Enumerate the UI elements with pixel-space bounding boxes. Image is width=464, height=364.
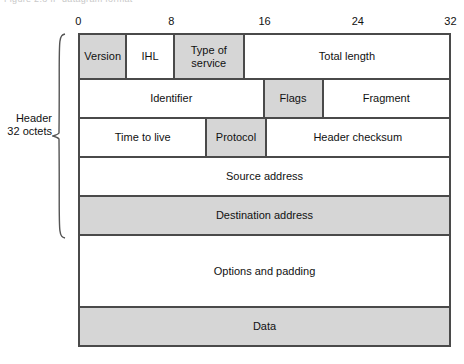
field-label: Source address <box>226 170 303 183</box>
bit-position-ruler: 08162432 <box>78 15 451 29</box>
header-annotation-line-1: Header <box>0 112 52 125</box>
datagram-row: Time to liveProtocolHeader checksum <box>80 119 451 158</box>
bit-tick-label-16: 16 <box>258 15 270 27</box>
datagram-row: IdentifierFlagsFragment <box>80 80 451 119</box>
bit-tick-label-24: 24 <box>352 15 364 27</box>
field-label: Type of service <box>175 44 243 69</box>
field-source-address: Source address <box>80 158 451 197</box>
field-label: IHL <box>142 50 159 63</box>
field-label: Version <box>84 50 121 63</box>
figure-caption-remnant: Figure 2.8 IP datagram format <box>4 0 204 4</box>
field-label: Options and padding <box>214 265 316 278</box>
field-protocol: Protocol <box>207 119 266 158</box>
field-total-length: Total length <box>245 35 451 80</box>
field-fragment: Fragment <box>324 80 451 119</box>
field-label: Data <box>253 320 276 333</box>
field-label: Time to live <box>115 131 171 144</box>
field-identifier: Identifier <box>80 80 265 119</box>
field-time-to-live: Time to live <box>80 119 207 158</box>
datagram-row: VersionIHLType of serviceTotal length <box>80 35 451 80</box>
bit-tick-label-0: 0 <box>75 15 81 27</box>
datagram-row: Options and padding <box>80 236 451 308</box>
header-size-annotation: Header 32 octets <box>0 112 52 138</box>
header-brace-icon <box>52 33 66 239</box>
field-flags: Flags <box>265 80 324 119</box>
field-label: Fragment <box>363 92 410 105</box>
header-annotation-line-2: 32 octets <box>0 125 52 138</box>
field-label: Destination address <box>216 209 313 222</box>
field-type-of-service: Type of service <box>175 35 245 80</box>
field-label: Header checksum <box>313 131 402 144</box>
datagram-row: Destination address <box>80 197 451 236</box>
datagram-row: Data <box>80 308 451 347</box>
bit-tick-label-8: 8 <box>168 15 174 27</box>
field-options-and-padding: Options and padding <box>80 236 451 308</box>
field-version: Version <box>80 35 127 80</box>
field-label: Flags <box>280 92 307 105</box>
datagram-row: Source address <box>80 158 451 197</box>
field-ihl: IHL <box>127 35 174 80</box>
field-destination-address: Destination address <box>80 197 451 236</box>
field-data: Data <box>80 308 451 347</box>
field-header-checksum: Header checksum <box>267 119 452 158</box>
ip-datagram-table: VersionIHLType of serviceTotal lengthIde… <box>78 33 451 347</box>
field-label: Identifier <box>150 92 192 105</box>
bit-tick-label-32: 32 <box>444 15 456 27</box>
field-label: Protocol <box>216 131 256 144</box>
field-label: Total length <box>319 50 375 63</box>
ip-datagram-figure: { "figure": { "caption_remnant": "Figure… <box>0 0 464 364</box>
